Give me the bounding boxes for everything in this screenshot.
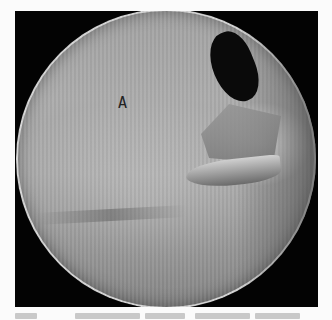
- figure-caption: [15, 312, 318, 320]
- image-frame: A: [15, 11, 318, 307]
- arthroscopic-view: [16, 11, 316, 307]
- region-label-a: A: [118, 94, 127, 112]
